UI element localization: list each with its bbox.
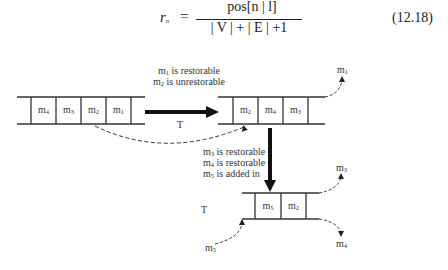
label-sub: 3	[344, 166, 347, 173]
note-text: is restorable	[214, 146, 265, 157]
note-text: is restorable	[214, 157, 265, 168]
transition-2-note-1: m3 is restorable	[203, 146, 265, 157]
evicted-m1-label: m1	[337, 64, 348, 75]
transition-arrow-right	[145, 106, 219, 118]
note-var: m	[158, 65, 166, 76]
cell-sub: 3	[71, 108, 74, 115]
queue-bottom-cell: m2	[281, 200, 306, 211]
cell-var: m	[38, 104, 46, 115]
note-text: is added in	[214, 168, 260, 179]
label-sub: 5	[213, 246, 216, 253]
queue-left-cell: m4	[31, 104, 56, 115]
transition-2-time-label: T	[201, 204, 207, 215]
carry-over-curve	[95, 126, 244, 143]
cell-var: m	[113, 104, 121, 115]
label-sub: 4	[344, 242, 347, 249]
incoming-m5-curve	[215, 224, 242, 244]
queue-left-cell: m3	[56, 104, 81, 115]
cell-sub: 3	[298, 108, 301, 115]
evict-m3-curve	[319, 178, 341, 193]
incoming-m5-label: m5	[205, 242, 216, 253]
queue-right-cell: m3	[283, 104, 308, 115]
queue-bottom-cell: m5	[255, 200, 281, 211]
cell-var: m	[63, 104, 71, 115]
cell-var: m	[288, 200, 296, 211]
note-text: is unrestorable	[164, 76, 225, 87]
cell-sub: 4	[273, 108, 276, 115]
evicted-m3-label: m3	[336, 162, 347, 173]
cell-sub: 2	[96, 108, 99, 115]
queue-right-cell: m2	[233, 104, 258, 115]
cell-sub: 2	[248, 108, 251, 115]
label-sub: 1	[345, 68, 348, 75]
transition-2-note-2: m4 is restorable	[203, 157, 265, 168]
label-var: m	[337, 64, 345, 75]
cell-sub: 2	[296, 204, 299, 211]
note-text: is restorable	[169, 65, 220, 76]
cell-sub: 1	[121, 108, 124, 115]
note-var: m	[203, 157, 211, 168]
cell-sub: 4	[46, 108, 49, 115]
note-var: m	[203, 146, 211, 157]
evict-m1-curve	[325, 80, 342, 97]
transition-2-note-3: m5 is added in	[203, 168, 260, 179]
cell-var: m	[88, 104, 96, 115]
cell-sub: 5	[270, 204, 273, 211]
cell-var: m	[265, 104, 273, 115]
transition-1-time-label: T	[177, 119, 183, 130]
transition-1-note-2: m2 is unrestorable	[148, 76, 230, 87]
note-var: m	[203, 168, 211, 179]
transition-arrow-down	[264, 128, 276, 192]
transition-1-note-1: m1 is restorable	[155, 65, 223, 76]
queue-left-cell: m2	[81, 104, 106, 115]
evicted-m4-label: m4	[336, 238, 347, 249]
label-var: m	[336, 162, 344, 173]
diagram-graphics	[0, 0, 448, 270]
cell-var: m	[240, 104, 248, 115]
queue-right-cell: m4	[258, 104, 283, 115]
evict-m4-curve	[319, 219, 341, 232]
cell-var: m	[290, 104, 298, 115]
label-var: m	[336, 238, 344, 249]
label-var: m	[205, 242, 213, 253]
note-var: m	[153, 76, 161, 87]
queue-left-cell: m1	[106, 104, 131, 115]
